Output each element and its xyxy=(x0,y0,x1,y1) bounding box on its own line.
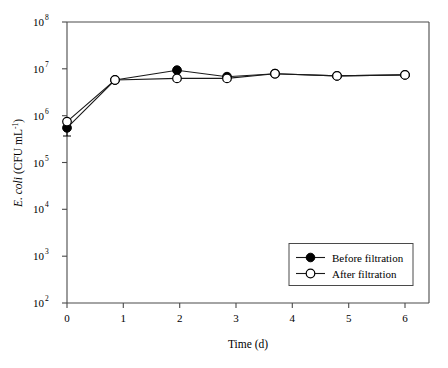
legend: Before filtration After filtration xyxy=(289,244,413,286)
data-point-after-filtration xyxy=(401,71,410,80)
y-tick-exponent: 3 xyxy=(45,247,49,256)
x-tick-label: 6 xyxy=(402,312,408,324)
y-tick-label: 10 xyxy=(33,250,45,262)
y-tick-label: 10 xyxy=(33,157,45,169)
y-tick-exponent: 5 xyxy=(45,154,49,163)
x-tick-label: 3 xyxy=(233,312,239,324)
y-tick-label: 10 xyxy=(33,203,45,215)
data-point-after-filtration xyxy=(111,76,120,85)
y-tick-label: 10 xyxy=(33,110,45,122)
svg-text:E. coli (CFU mL-1): E. coli (CFU mL-1) xyxy=(11,119,25,208)
x-tick-label: 0 xyxy=(64,312,70,324)
x-tick-label: 4 xyxy=(290,312,296,324)
y-axis-title-italic: E. coli xyxy=(12,177,24,208)
legend-label-after-filtration: After filtration xyxy=(332,268,397,280)
legend-marker-open-circle xyxy=(306,269,315,278)
x-tick-label: 2 xyxy=(177,312,183,324)
y-tick-label: 10 xyxy=(33,16,45,28)
y-tick-label: 10 xyxy=(33,297,45,309)
data-point-after-filtration xyxy=(333,72,342,81)
y-tick-exponent: 4 xyxy=(45,200,49,209)
legend-entry-before-filtration[interactable]: Before filtration xyxy=(296,252,404,264)
figure-container: 10 8 10 7 10 6 10 5 10 4 10 3 10 2 xyxy=(0,0,448,368)
y-tick-labels: 10 8 10 7 10 6 10 5 10 4 10 3 10 2 xyxy=(33,13,49,309)
data-point-after-filtration xyxy=(63,117,72,126)
legend-entry-after-filtration[interactable]: After filtration xyxy=(296,268,397,280)
legend-label-before-filtration: Before filtration xyxy=(332,252,404,264)
y-axis-title-rest: (CFU mL xyxy=(12,129,25,177)
y-tick-marks xyxy=(62,22,67,303)
legend-marker-filled-circle xyxy=(306,253,315,262)
data-point-after-filtration xyxy=(223,74,232,83)
x-tick-label: 5 xyxy=(346,312,352,324)
y-tick-label: 10 xyxy=(33,63,45,75)
x-axis-title: Time (d) xyxy=(228,338,268,351)
y-tick-exponent: 2 xyxy=(45,294,49,303)
y-axis-title-tail: ) xyxy=(12,119,25,123)
x-tick-marks xyxy=(67,303,405,308)
y-axis-title: E. coli (CFU mL-1) xyxy=(11,119,25,208)
y-tick-exponent: 6 xyxy=(45,107,49,116)
data-point-after-filtration xyxy=(271,69,280,78)
data-point-before-filtration xyxy=(173,66,182,75)
y-tick-exponent: 7 xyxy=(45,60,49,69)
x-tick-label: 1 xyxy=(121,312,127,324)
x-tick-labels: 0 1 2 3 4 5 6 xyxy=(64,312,408,324)
data-point-after-filtration xyxy=(173,74,182,83)
line-chart: 10 8 10 7 10 6 10 5 10 4 10 3 10 2 xyxy=(0,0,448,368)
y-tick-exponent: 8 xyxy=(45,13,49,22)
